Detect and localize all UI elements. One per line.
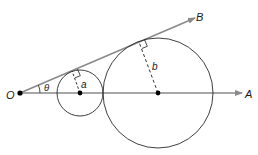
point-o xyxy=(17,90,22,95)
radius-a-dashed xyxy=(72,71,80,93)
label-b-ray: B xyxy=(196,11,203,23)
angle-arc-theta xyxy=(38,85,40,93)
point-center-large xyxy=(156,91,161,96)
diagram-canvas: O A B θ a b xyxy=(0,0,258,155)
label-a-ray: A xyxy=(244,88,252,100)
point-center-small xyxy=(78,91,83,96)
label-theta: θ xyxy=(44,82,50,93)
label-o: O xyxy=(6,89,15,101)
tangent-circles-diagram: O A B θ a b xyxy=(0,0,258,155)
label-radius-a: a xyxy=(81,79,87,90)
label-radius-b: b xyxy=(152,61,158,72)
